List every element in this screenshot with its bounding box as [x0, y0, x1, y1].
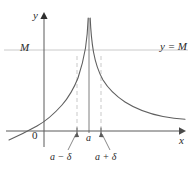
m-value-label: M — [20, 42, 29, 53]
a-value-label: a — [86, 133, 91, 143]
y-equals-m-line-label: y = M — [160, 41, 187, 52]
leader-arrowhead-a-plus-delta — [99, 132, 104, 137]
a-plus-delta-label: a + δ — [95, 152, 116, 162]
origin-label: 0 — [32, 130, 38, 141]
curve-left-branch — [9, 18, 88, 140]
y-axis-arrowhead — [40, 12, 47, 19]
curve-right-branch — [90, 18, 185, 119]
a-minus-delta-label: a − δ — [50, 152, 71, 162]
limit-diagram-figure: y x 0 M y = M a a − δ a + δ — [0, 0, 193, 177]
leader-arrowhead-a-minus-delta — [74, 132, 79, 137]
x-axis-label: x — [179, 135, 184, 146]
y-axis-label: y — [33, 10, 38, 21]
